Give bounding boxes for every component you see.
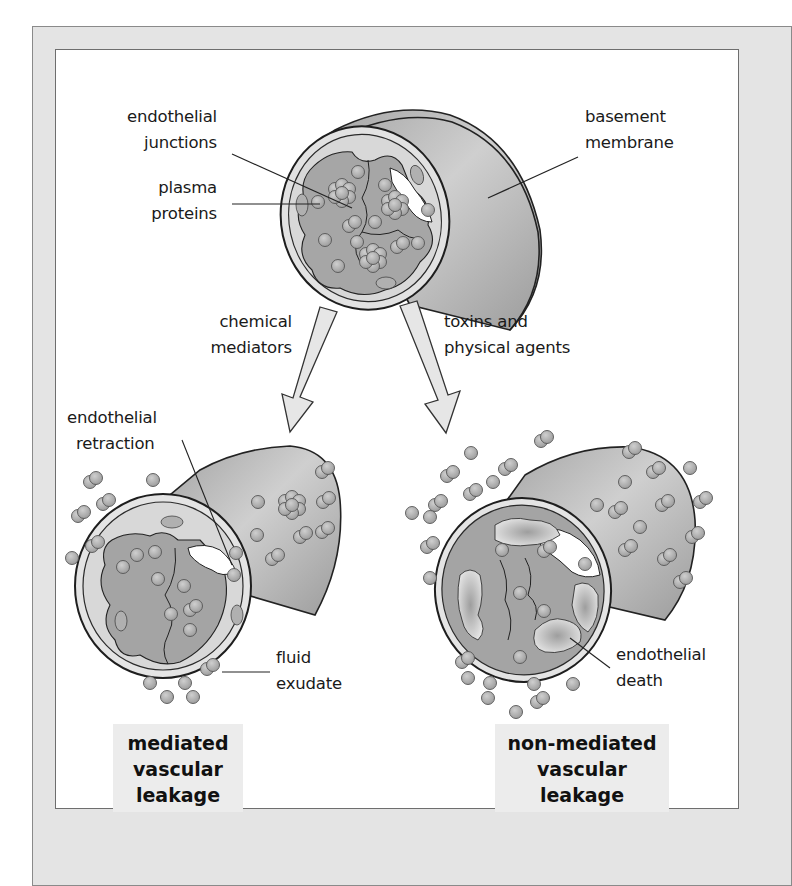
label-plasma-proteins: plasma proteins	[120, 175, 217, 227]
label-toxins-physical-agents: toxins and physical agents	[444, 309, 570, 361]
label-endothelial-retraction: endothelial retraction	[67, 405, 157, 457]
top-vessel	[264, 110, 542, 330]
label-basement-membrane: basement membrane	[585, 104, 674, 156]
caption-non-mediated-vascular-leakage: non-mediated vascular leakage	[495, 724, 669, 812]
caption-mediated-vascular-leakage: mediated vascular leakage	[113, 724, 243, 812]
label-fluid-exudate: fluid exudate	[276, 645, 342, 697]
label-endothelial-junctions: endothelial junctions	[100, 104, 217, 156]
label-chemical-mediators: chemical mediators	[180, 309, 292, 361]
label-endothelial-death: endothelial death	[616, 642, 706, 694]
